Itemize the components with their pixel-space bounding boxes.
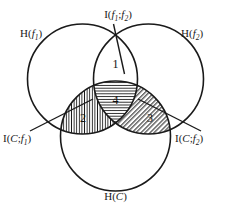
region-3-number: 3	[147, 111, 153, 125]
label-h-c-close: )	[123, 190, 127, 203]
region-1-number: 1	[113, 57, 119, 71]
label-h-c-main: H	[104, 190, 112, 202]
label-i-c-f2-close: )	[200, 132, 204, 145]
label-h-f2-close: )	[199, 27, 203, 40]
label-h-f1-main: H	[20, 27, 28, 39]
label-h-c: H(C)	[104, 190, 127, 203]
region-2-number: 2	[80, 111, 86, 125]
venn-diagram-figure: 1 2 3 4 H(f1) H(f2) H(C) I(f1;f2) I(C;f1…	[0, 0, 231, 214]
label-h-f2-main: H	[181, 27, 189, 39]
label-i-f1-f2-close: )	[128, 8, 132, 21]
region-4-number: 4	[113, 93, 119, 107]
label-i-c-f1-close: )	[28, 132, 32, 145]
label-h-f1-close: )	[38, 27, 42, 40]
venn-diagram-svg: 1 2 3 4 H(f1) H(f2) H(C) I(f1;f2) I(C;f1…	[0, 0, 231, 214]
